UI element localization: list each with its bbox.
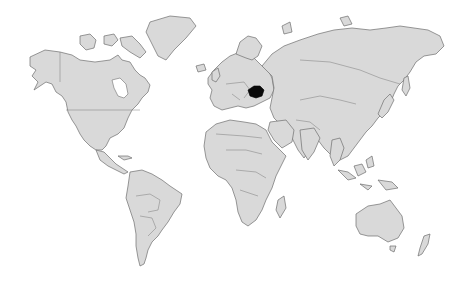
asia (262, 16, 444, 166)
world-map (0, 0, 465, 289)
europe (196, 36, 274, 110)
south-america (126, 170, 182, 266)
maritime-southeast-asia (338, 156, 398, 190)
world-map-svg (0, 0, 465, 289)
australia (356, 200, 430, 256)
north-america (30, 16, 196, 174)
